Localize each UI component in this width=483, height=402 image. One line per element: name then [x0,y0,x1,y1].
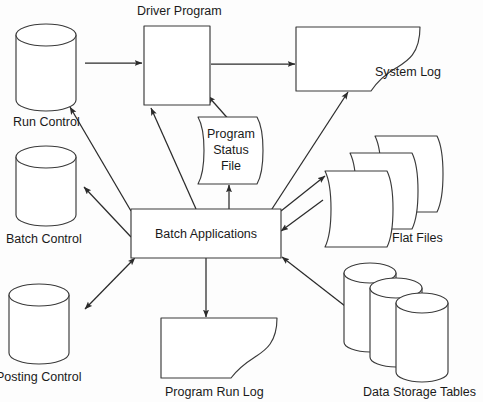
program-run-log-label: Program Run Log [165,385,264,399]
edge-flat-files-to-batch-applications [281,200,323,231]
edge-batch-applications-posting-control [85,262,131,309]
system-log-shape [296,27,420,91]
diagram-canvas: Run Control Batch Control Posting Contro… [0,0,483,402]
flow-diagram: Run Control Batch Control Posting Contro… [0,0,483,402]
node-program-run-log[interactable]: Program Run Log [161,318,277,399]
system-log-label: System Log [375,65,441,79]
node-program-status-file[interactable]: Program Status File [198,117,263,184]
run-control-cylinder-top [16,24,76,46]
flat-files-label: Flat Files [392,231,443,245]
program-status-file-label-line2: Status [213,143,248,157]
node-flat-files[interactable]: Flat Files [325,136,443,247]
batch-applications-label: Batch Applications [155,227,257,241]
batch-control-label: Batch Control [6,232,82,246]
node-posting-control[interactable]: Posting Control [0,284,81,384]
data-storage-cylinder-front-top [396,293,448,313]
posting-control-label: Posting Control [0,370,81,384]
program-status-file-label-line1: Program [207,127,255,141]
program-run-log-shape [161,318,277,378]
node-driver-program[interactable]: Driver Program [137,4,222,105]
edge-data-storage-tables-to-batch-applications [282,257,345,306]
run-control-label: Run Control [13,115,80,129]
posting-control-cylinder-top [9,284,69,306]
program-status-file-label-line3: File [221,159,241,173]
flat-file-shape-front [325,171,393,247]
driver-program-label: Driver Program [137,4,222,18]
data-storage-cylinder-front-body [396,303,448,382]
node-batch-applications[interactable]: Batch Applications [131,209,281,258]
driver-program-box [144,26,210,105]
edge-batch-applications-to-batch-control [84,187,131,237]
batch-control-cylinder-top [16,146,76,168]
node-run-control[interactable]: Run Control [13,24,80,129]
node-data-storage-tables[interactable]: Data Storage Tables [344,263,476,399]
data-storage-tables-label: Data Storage Tables [363,385,476,399]
node-batch-control[interactable]: Batch Control [6,146,82,246]
node-system-log[interactable]: System Log [296,27,441,91]
edge-batch-applications-to-flat-files [281,176,325,211]
edge-batch-applications-to-driver-program [151,108,196,209]
